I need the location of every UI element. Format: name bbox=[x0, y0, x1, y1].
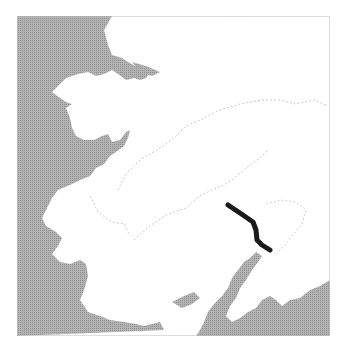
map-frame bbox=[17, 16, 330, 336]
page bbox=[0, 0, 343, 358]
map-canvas[interactable] bbox=[17, 16, 330, 336]
